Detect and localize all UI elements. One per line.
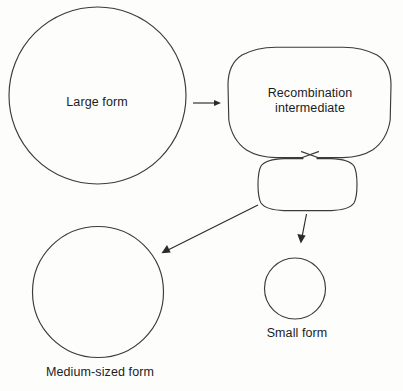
recombination-intermediate-label-line2: intermediate bbox=[275, 101, 345, 115]
small-form-label: Small form bbox=[267, 326, 328, 341]
arrow-large-to-intermediate bbox=[193, 100, 221, 106]
recombination-intermediate-small-loop bbox=[258, 159, 357, 211]
recombination-diagram: Large form Recombinationintermediate Med… bbox=[0, 0, 403, 391]
arrow-intermediate-to-medium bbox=[162, 205, 259, 253]
diagram-canvas bbox=[0, 0, 403, 391]
strand-crossover-icon bbox=[302, 152, 319, 158]
large-form-label: Large form bbox=[66, 95, 127, 110]
arrow-intermediate-to-small bbox=[297, 214, 306, 244]
medium-form-circle bbox=[33, 227, 164, 358]
small-form-circle bbox=[265, 258, 326, 319]
recombination-intermediate-label-line1: Recombination bbox=[268, 86, 353, 100]
recombination-intermediate-label: Recombinationintermediate bbox=[268, 86, 353, 116]
medium-form-label: Medium-sized form bbox=[46, 365, 154, 380]
